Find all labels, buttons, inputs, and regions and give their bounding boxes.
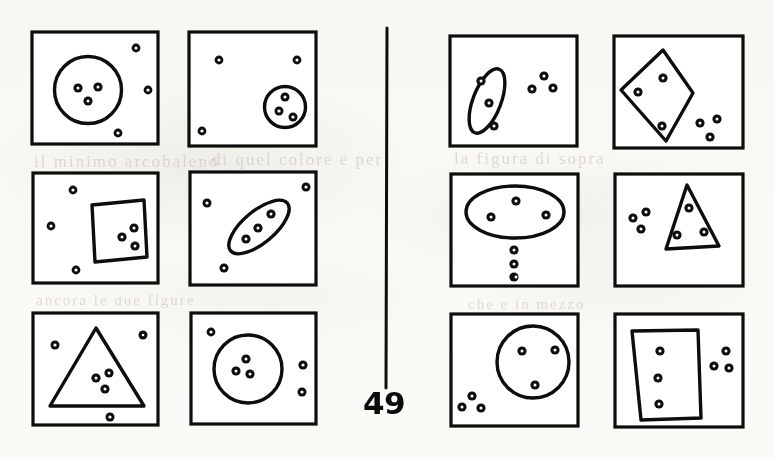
page-number: 49 [352, 386, 416, 420]
scanned-page: il minimo arcobalenodi quel colore e per… [0, 0, 774, 460]
panel-4[interactable] [190, 172, 316, 285]
panel-11[interactable] [451, 314, 578, 426]
panel-12[interactable] [615, 314, 743, 427]
panel-3[interactable] [33, 173, 158, 283]
panel-7[interactable] [450, 36, 577, 146]
panel-frame [450, 36, 577, 146]
panel-frame [190, 172, 316, 285]
panel-frame [451, 174, 578, 286]
panel-frame [614, 36, 743, 148]
panel-10[interactable] [615, 174, 743, 286]
vertical-rule [386, 28, 387, 388]
panel-1[interactable] [32, 32, 158, 144]
left-column [32, 32, 316, 425]
panel-5[interactable] [33, 313, 158, 425]
panel-8[interactable] [614, 36, 743, 148]
right-column [450, 36, 743, 427]
panel-9[interactable] [451, 174, 578, 286]
panel-6[interactable] [191, 313, 316, 424]
dots-outside [509, 245, 518, 281]
panel-frame [615, 174, 743, 286]
panel-2[interactable] [189, 32, 316, 146]
